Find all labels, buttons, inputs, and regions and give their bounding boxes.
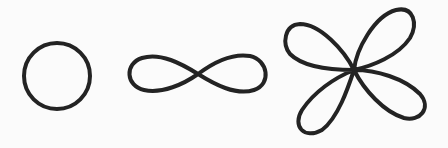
circle-shape (24, 43, 90, 109)
shapes-svg (0, 0, 448, 148)
figure-canvas (0, 0, 448, 148)
four-leaf-rose-shape (285, 9, 424, 133)
lemniscate-shape (129, 55, 265, 91)
